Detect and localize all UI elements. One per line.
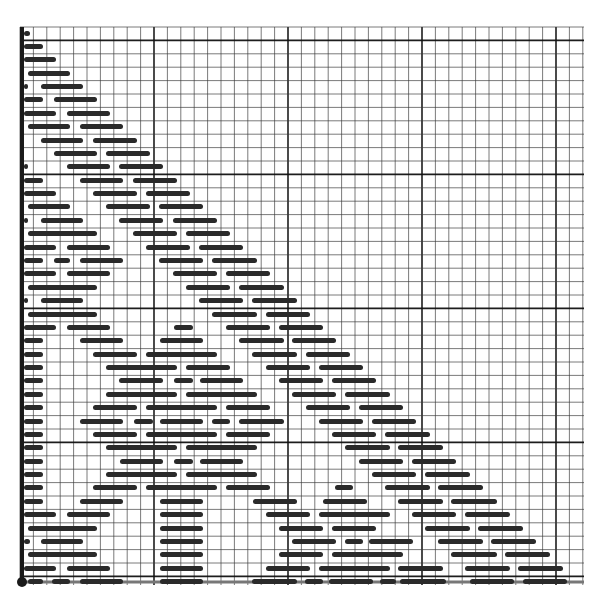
automaton-cell-bar [199, 245, 243, 250]
origin-dot [17, 577, 27, 587]
automaton-cell-bar [24, 325, 56, 330]
automaton-cell-bar [400, 579, 446, 584]
automaton-cell-bar [451, 552, 497, 557]
automaton-cell-bar [24, 191, 56, 196]
automaton-cell-bar [160, 552, 203, 557]
automaton-cell-bar [24, 352, 43, 357]
automaton-cell-bar [119, 218, 163, 223]
automaton-cell-bar [398, 566, 443, 571]
automaton-cell-bar [24, 499, 43, 504]
automaton-cell-bar [133, 231, 177, 236]
automaton-cell-bar [385, 485, 430, 490]
automaton-cell-bar [174, 459, 193, 464]
automaton-cell-bar [226, 271, 270, 276]
automaton-cell-bar [266, 365, 310, 370]
automaton-cell-bar [24, 44, 43, 49]
automaton-cell-bar [323, 499, 367, 504]
automaton-cell-bar [212, 312, 257, 317]
automaton-cell-bar [239, 285, 284, 290]
automaton-cell-bar [470, 579, 514, 584]
automaton-cell-bar [200, 459, 243, 464]
automaton-cell-bar [28, 312, 97, 317]
automaton-cell-bar [41, 298, 83, 303]
automaton-cell-bar [332, 526, 376, 531]
automaton-cell-bar [306, 352, 350, 357]
automaton-cell-bar [332, 432, 376, 437]
automaton-cell-bar [173, 218, 217, 223]
automaton-cell-bar [226, 325, 270, 330]
automaton-cell-bar [67, 566, 110, 571]
automaton-cell-bar [24, 419, 43, 424]
automaton-cell-bar [24, 258, 43, 263]
automaton-cell-bar [160, 579, 203, 584]
automaton-cell-bar [67, 271, 110, 276]
automaton-cell-bar [253, 499, 297, 504]
automaton-cell-bar [146, 352, 217, 357]
automaton-cell-bar [329, 579, 373, 584]
automaton-cell-bar [106, 365, 177, 370]
graph-paper-grid [0, 0, 604, 601]
automaton-cell-bar [93, 405, 137, 410]
automaton-cell-bar [279, 552, 323, 557]
automaton-cell-bar [252, 352, 297, 357]
automaton-cell-bar [28, 124, 70, 129]
automaton-cell-bar [28, 285, 97, 290]
automaton-cell-bar [24, 485, 43, 490]
automaton-cell-bar [200, 378, 243, 383]
automaton-cell-bar [226, 405, 270, 410]
automaton-cell-bar [41, 84, 83, 89]
automaton-cell-bar [93, 485, 137, 490]
automaton-cell-bar [24, 245, 56, 250]
automaton-cell-bar [186, 472, 257, 477]
automaton-cell-bar [146, 245, 190, 250]
automaton-cell-bar [380, 579, 396, 584]
automaton-cell-bar [199, 298, 243, 303]
automaton-cell-bar [24, 298, 28, 303]
automaton-cell-bar [398, 445, 443, 450]
automaton-cell-bar [385, 432, 430, 437]
automaton-cell-bar [186, 231, 230, 236]
automaton-cell-bar [160, 539, 203, 544]
automaton-cell-bar [279, 325, 323, 330]
automaton-cell-bar [80, 419, 123, 424]
automaton-cell-bar [438, 485, 483, 490]
automaton-cell-bar [106, 151, 150, 156]
automaton-cell-bar [266, 312, 310, 317]
automaton-cell-bar [465, 512, 510, 517]
automaton-cell-bar [67, 245, 110, 250]
automaton-cell-bar [319, 365, 363, 370]
automaton-cell-bar [159, 258, 203, 263]
automaton-cell-bar [279, 526, 323, 531]
automaton-cell-bar [174, 378, 193, 383]
automaton-cell-bar [24, 445, 43, 450]
automaton-cell-bar [266, 512, 310, 517]
automaton-cell-bar [319, 566, 390, 571]
automaton-cell-bar [24, 472, 43, 477]
automaton-cell-bar [119, 164, 163, 169]
automaton-cell-bar [160, 499, 203, 504]
automaton-cell-bar [173, 271, 217, 276]
automaton-cell-bar [239, 419, 284, 424]
automaton-cell-bar [28, 552, 97, 557]
automaton-cell-bar [24, 218, 28, 223]
automaton-cell-bar [93, 191, 137, 196]
automaton-cell-bar [80, 579, 123, 584]
automaton-cell-bar [24, 338, 43, 343]
automaton-cell-bar [24, 84, 28, 89]
automaton-cell-bar [305, 579, 323, 584]
automaton-cell-bar [335, 485, 353, 490]
automaton-cell-bar [24, 512, 56, 517]
automaton-cell-bar [451, 499, 497, 504]
automaton-cell-bar [266, 566, 310, 571]
automaton-cell-bar [160, 566, 203, 571]
automaton-cell-bar [306, 405, 350, 410]
automaton-cell-bar [106, 392, 177, 397]
automaton-cell-bar [52, 579, 70, 584]
automaton-cell-bar [106, 204, 150, 209]
automaton-cell-bar [160, 338, 203, 343]
automaton-cell-bar [438, 539, 483, 544]
automaton-cell-bar [226, 485, 270, 490]
automaton-cell-bar [80, 124, 123, 129]
automaton-cell-bar [24, 539, 30, 544]
automaton-cell-bar [24, 111, 56, 116]
